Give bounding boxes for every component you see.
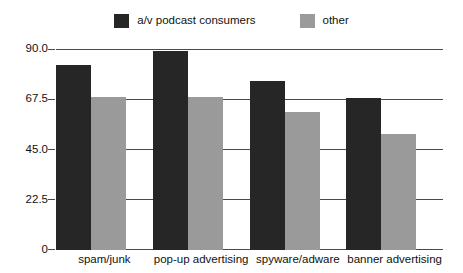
legend-item-series-0: a/v podcast consumers [114,14,255,28]
y-tick-label: 67.5 [26,94,48,106]
chart-legend: a/v podcast consumers other [0,10,463,32]
bar-series-1 [188,97,223,250]
y-tick-label: 90.0 [26,43,48,55]
x-category-label: pop-up advertising [153,253,250,271]
y-tick-mark [48,249,55,250]
bar-series-0 [250,81,285,250]
y-tick-label: 45.0 [26,144,48,156]
y-tick-mark [48,199,55,200]
y-tick-label: 22.5 [26,194,48,206]
y-axis: 90.0 67.5 45.0 22.5 0 [0,49,48,250]
bar-chart: a/v podcast consumers other 90.0 67.5 45… [0,0,463,273]
bar-group [346,49,443,250]
bar-group [250,49,347,250]
legend-label-series-0: a/v podcast consumers [137,15,255,27]
bar-series-0 [153,51,188,250]
legend-swatch-icon-series-1 [300,14,315,28]
y-tick-label: 0 [42,244,48,256]
x-category-label: spyware/adware [250,253,347,271]
legend-swatch-icon-series-0 [114,14,129,28]
bar-group [56,49,153,250]
x-category-label: banner advertising [346,253,443,271]
legend-label-series-1: other [323,15,349,27]
x-axis-labels: spam/junk pop-up advertising spyware/adw… [56,253,443,271]
x-category-label: spam/junk [56,253,153,271]
bar-series-0 [346,98,381,250]
y-tick-mark [48,99,55,100]
bar-series-1 [381,134,416,250]
bar-series-container [56,49,443,250]
bar-series-0 [56,65,91,250]
bar-series-1 [91,97,126,250]
bar-group [153,49,250,250]
legend-item-series-1: other [300,14,349,28]
y-tick-mark [48,149,55,150]
y-tick-mark [48,49,55,50]
plot-area [56,49,443,250]
bar-series-1 [285,112,320,250]
